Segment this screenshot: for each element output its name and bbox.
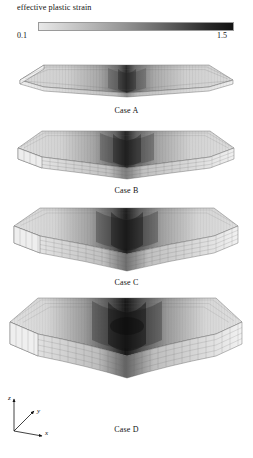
axis-x-arrow xyxy=(14,431,42,436)
axis-x-label: x xyxy=(44,429,49,437)
axis-y-label: y xyxy=(36,407,41,415)
case-label-a: Case A xyxy=(0,106,253,115)
figure-root: effective plastic strain 0.1 1.5 xyxy=(0,0,253,458)
mesh-render-case-d xyxy=(0,292,253,402)
mesh-render-case-a xyxy=(0,46,253,106)
case-label-b: Case B xyxy=(0,186,253,195)
axis-y-arrow xyxy=(14,411,34,431)
specimen-panel-case-a: Case A xyxy=(0,46,253,118)
colorbar-title: effective plastic strain xyxy=(17,3,92,12)
colorbar-gradient xyxy=(38,22,234,31)
specimen-panel-case-c: Case C xyxy=(0,200,253,292)
colorbar-max-label: 1.5 xyxy=(217,31,227,40)
specimen-panel-case-b: Case B xyxy=(0,118,253,200)
axis-z-label: z xyxy=(7,394,11,402)
mesh-render-case-b xyxy=(0,118,253,188)
colorbar-min-label: 0.1 xyxy=(17,31,27,40)
colorbar-legend: effective plastic strain 0.1 1.5 xyxy=(0,0,253,46)
axis-triad: z y x xyxy=(4,391,60,441)
mesh-render-case-c xyxy=(0,200,253,280)
case-label-c: Case C xyxy=(0,278,253,287)
